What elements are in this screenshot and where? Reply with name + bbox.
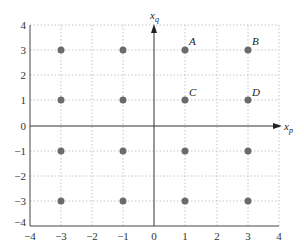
point [120, 47, 127, 54]
point [182, 148, 189, 155]
point [245, 198, 252, 205]
svg-text:3: 3 [21, 44, 27, 56]
svg-text:−2: −2 [14, 170, 26, 182]
point-b [245, 47, 252, 54]
svg-text:3: 3 [245, 230, 251, 242]
svg-text:4: 4 [276, 230, 282, 242]
point-a [182, 47, 189, 54]
point [58, 148, 65, 155]
annotation-c: C [189, 86, 197, 98]
svg-text:−1: −1 [117, 230, 129, 242]
svg-text:0: 0 [21, 120, 27, 132]
svg-text:−1: −1 [14, 145, 26, 157]
point [182, 198, 189, 205]
point [58, 198, 65, 205]
annotation-a: A [188, 35, 196, 47]
point [120, 148, 127, 155]
annotation-b: B [252, 35, 259, 47]
svg-text:−4: −4 [24, 230, 36, 242]
svg-text:2: 2 [21, 69, 27, 81]
chart-canvas: xp xq 4 3 2 1 0 −1 −2 −3 −4 −4 −3 −2 −1 … [0, 0, 304, 250]
y-axis-label: xq [149, 9, 159, 24]
svg-text:1: 1 [182, 230, 188, 242]
svg-text:1: 1 [21, 94, 27, 106]
y-tick-labels: 4 3 2 1 0 −1 −2 −3 −4 [14, 19, 26, 228]
point-d [245, 97, 252, 104]
svg-text:−3: −3 [55, 230, 67, 242]
x-tick-labels: −4 −3 −2 −1 0 1 2 3 4 [24, 230, 282, 242]
svg-text:−2: −2 [86, 230, 98, 242]
svg-text:−4: −4 [14, 216, 26, 228]
svg-text:2: 2 [214, 230, 220, 242]
point [120, 97, 127, 104]
point [58, 47, 65, 54]
svg-text:−3: −3 [14, 195, 26, 207]
svg-text:0: 0 [151, 230, 157, 242]
svg-text:4: 4 [21, 19, 27, 31]
point-c [182, 97, 189, 104]
point [58, 97, 65, 104]
point [120, 198, 127, 205]
annotation-d: D [251, 86, 260, 98]
point [245, 148, 252, 155]
x-axis-arrow-icon [273, 123, 282, 129]
x-axis-label: xp [283, 120, 293, 135]
